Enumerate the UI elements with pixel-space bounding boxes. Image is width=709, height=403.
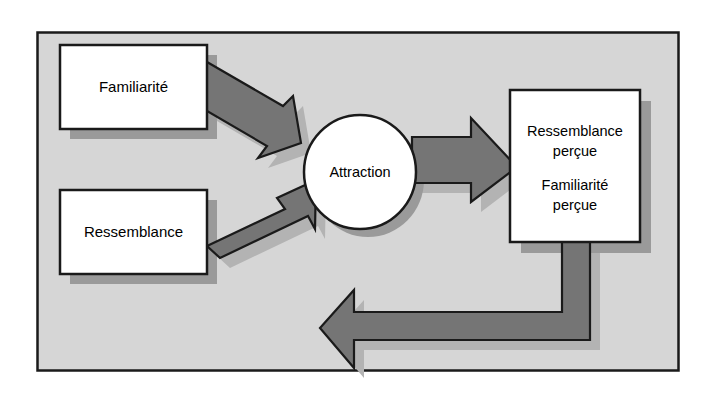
diagram-figure: Familiarité Ressemblance Attraction Ress…: [0, 0, 709, 403]
node-attraction[interactable]: Attraction: [304, 115, 416, 229]
node-percue-rect: [510, 90, 640, 242]
node-percue-label-line4: perçue: [553, 197, 597, 213]
node-familiarite[interactable]: Familiarité: [60, 45, 207, 129]
node-percue[interactable]: Ressemblance perçue Familiarité perçue: [510, 90, 640, 242]
node-percue-label-line2: perçue: [553, 143, 597, 159]
diagram-canvas: Familiarité Ressemblance Attraction Ress…: [0, 0, 709, 403]
node-percue-label-line3: Familiarité: [542, 177, 609, 193]
node-ressemblance[interactable]: Ressemblance: [60, 190, 207, 274]
node-ressemblance-label: Ressemblance: [84, 223, 183, 240]
node-attraction-label: Attraction: [329, 164, 390, 180]
node-familiarite-label: Familiarité: [99, 78, 168, 95]
node-percue-label-line1: Ressemblance: [527, 123, 623, 139]
